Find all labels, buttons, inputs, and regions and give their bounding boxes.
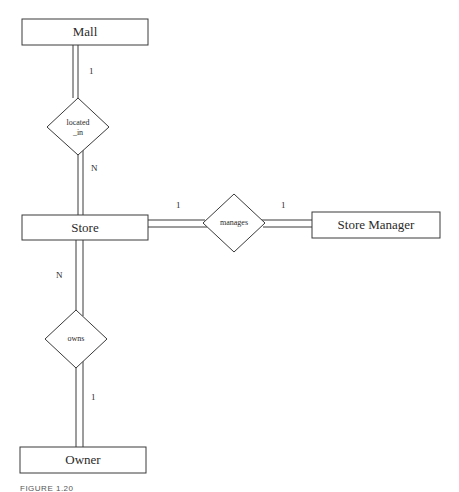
- relationship-located-in-label-line2: _in: [72, 128, 83, 137]
- connector-owns-owner: [76, 361, 83, 447]
- connector-located-in-store: [78, 149, 83, 215]
- entity-store-label: Store: [71, 220, 99, 235]
- relationship-manages-label: manages: [220, 218, 248, 227]
- connector-mall-located-in: [73, 45, 78, 101]
- cardinality-store-owns: N: [56, 270, 63, 280]
- cardinality-store-manages: 1: [176, 200, 181, 210]
- er-diagram-canvas: Mall Store Store Manager Owner located _…: [0, 0, 459, 492]
- entity-owner-label: Owner: [65, 452, 101, 467]
- relationship-owns[interactable]: owns: [45, 310, 107, 368]
- entity-owner[interactable]: Owner: [20, 447, 146, 473]
- relationship-manages[interactable]: manages: [203, 194, 265, 252]
- relationship-owns-label: owns: [68, 334, 85, 343]
- cardinality-owner-owns: 1: [91, 392, 96, 402]
- figure-caption: FIGURE 1.20: [20, 484, 74, 492]
- entity-store-manager-label: Store Manager: [338, 217, 416, 232]
- relationship-located-in[interactable]: located _in: [47, 98, 109, 155]
- entity-mall-label: Mall: [73, 24, 98, 39]
- entity-mall[interactable]: Mall: [22, 19, 148, 45]
- entity-store-manager[interactable]: Store Manager: [312, 212, 440, 238]
- relationship-located-in-label-line1: located: [66, 118, 89, 127]
- connector-store-manages: [148, 220, 207, 227]
- cardinality-mall-located-in: 1: [89, 66, 94, 76]
- entity-store[interactable]: Store: [22, 215, 148, 240]
- cardinality-manager-manages: 1: [281, 200, 286, 210]
- connector-store-owns: [76, 240, 83, 316]
- connector-manages-store-manager: [261, 220, 312, 227]
- cardinality-store-located-in: N: [91, 163, 98, 173]
